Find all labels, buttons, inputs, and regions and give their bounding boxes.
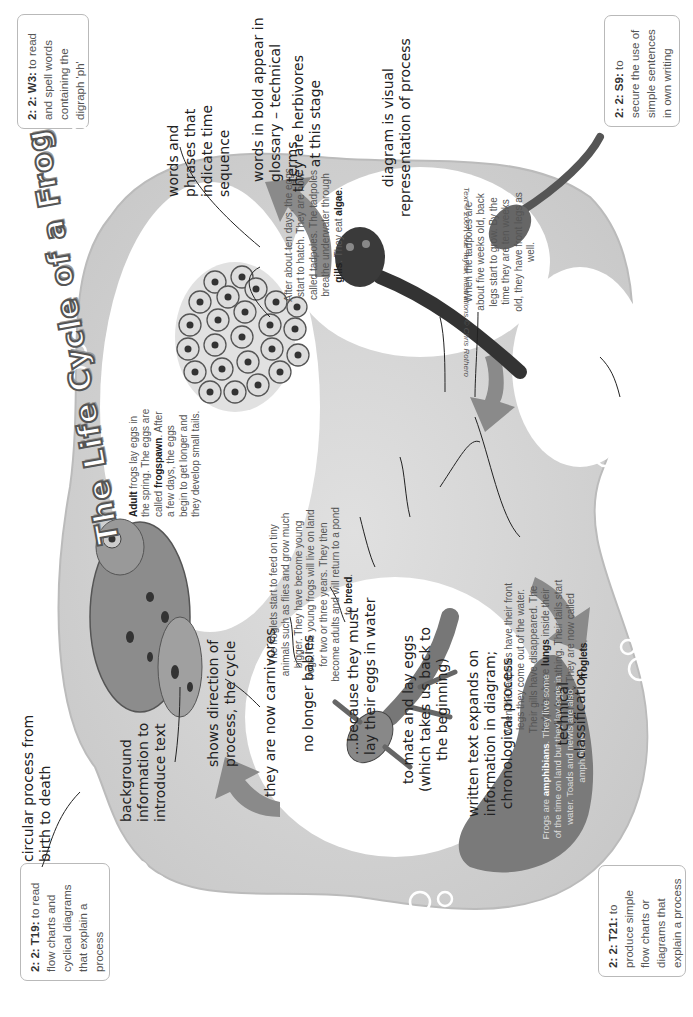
annotation-time-words: words and phrases that indicate time seq… (165, 105, 233, 197)
stage-text-back-legs: When the tadpoles are about five weeks o… (450, 192, 538, 312)
annotation-because-water: ...because they must lay their eggs in w… (345, 597, 379, 755)
annotation-background-info: background information to introduce text (118, 723, 169, 822)
annotation-herbivores: they are herbivores at this stage (290, 55, 324, 192)
annotation-no-longer-babies: no longer babies (300, 635, 317, 752)
annotation-diagram-visual: diagram is visual representation of proc… (380, 38, 414, 217)
annotation-written-text: written text expands on information in d… (465, 650, 516, 817)
annotation-mate-lay-eggs: to mate and lay eggs (which takes us bac… (400, 627, 451, 792)
annotation-carnivores: they are now carnivores (262, 628, 279, 797)
annotation-circular-process: circular process from birth to death (20, 715, 54, 862)
annotation-technical-classification: technical classification (555, 668, 589, 759)
worksheet-page: 2: 2: T19: to read flow charts and cycli… (0, 0, 693, 1017)
stage-text-adult: Adult frogs lay eggs in the spring. The … (115, 407, 203, 517)
annotation-direction: shows direction of process, the cycle (205, 640, 239, 767)
